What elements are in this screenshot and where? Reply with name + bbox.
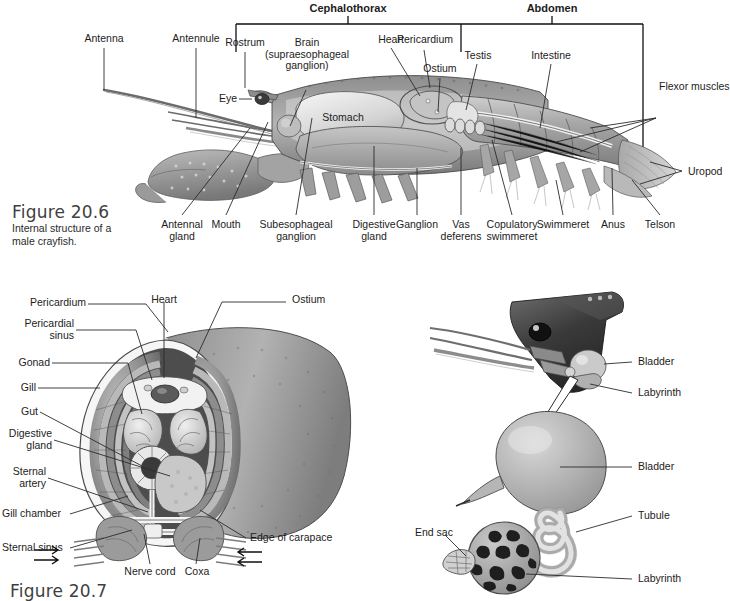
label-ag-labyrinth-enlarged: Labyrinth <box>638 573 681 585</box>
label-brain: Brain (supraesophageal ganglion) <box>258 37 356 72</box>
label-xs-pericardial-sinus: Pericardial sinus <box>4 318 74 341</box>
label-subesophageal-ganglion: Subesophageal ganglion <box>247 219 345 242</box>
bracket-label-cephalothorax: Cephalothorax <box>288 3 408 15</box>
label-uropod: Uropod <box>688 166 722 178</box>
label-testis: Testis <box>455 50 501 62</box>
label-xs-gut: Gut <box>4 406 38 418</box>
label-xs-gonad: Gonad <box>4 357 50 369</box>
label-ag-labyrinth-head: Labyrinth <box>638 387 681 399</box>
label-xs-nerve-cord: Nerve cord <box>116 566 184 578</box>
label-xs-heart: Heart <box>140 294 188 306</box>
bracket-label-abdomen: Abdomen <box>502 3 602 15</box>
label-xs-edge-of-carapace: Edge of carapace <box>250 532 332 544</box>
label-telson: Telson <box>636 219 684 231</box>
label-swimmeret: Swimmeret <box>528 219 598 231</box>
label-pericardium: Pericardium <box>389 34 461 46</box>
label-xs-ostium: Ostium <box>292 294 325 306</box>
label-mouth: Mouth <box>198 219 254 231</box>
figure-20-6: Cephalothorax Abdomen Antenna Antennule … <box>0 0 723 260</box>
label-antenna: Antenna <box>69 33 139 45</box>
label-ag-tubule: Tubule <box>638 510 670 522</box>
label-stomach: Stomach <box>312 112 374 124</box>
label-xs-coxa: Coxa <box>176 566 218 578</box>
figure-20-7-caption-title: Figure 20.7 <box>10 581 107 601</box>
label-ag-bladder-head: Bladder <box>638 356 674 368</box>
label-xs-digestive-gland: Digestive gland <box>2 428 52 451</box>
label-ostium: Ostium <box>413 63 467 75</box>
figure-20-6-caption-title: Figure 20.6 <box>12 202 109 222</box>
label-xs-pericardium: Pericardium <box>4 297 86 309</box>
figure-antennal-gland: Bladder Labyrinth Bladder Tubule End sac… <box>400 280 723 595</box>
label-xs-sternal-sinus: Sternal sinus <box>2 542 63 554</box>
label-xs-gill-chamber: Gill chamber <box>2 508 61 520</box>
antennal-gland-leaders <box>400 280 723 595</box>
label-ag-bladder-enlarged: Bladder <box>638 461 674 473</box>
label-intestine: Intestine <box>518 50 584 62</box>
figure-20-6-caption-body: Internal structure of a male crayfish. <box>12 222 152 247</box>
label-flexor-muscles: Flexor muscles <box>659 81 730 93</box>
label-xs-sternal-artery: Sternal artery <box>2 466 46 489</box>
label-xs-gill: Gill <box>4 382 36 394</box>
figure-20-7: Pericardium Pericardial sinus Gonad Gill… <box>0 280 400 595</box>
label-anus: Anus <box>592 219 634 231</box>
label-ag-end-sac: End sac <box>415 527 453 539</box>
label-eye: Eye <box>195 93 237 105</box>
